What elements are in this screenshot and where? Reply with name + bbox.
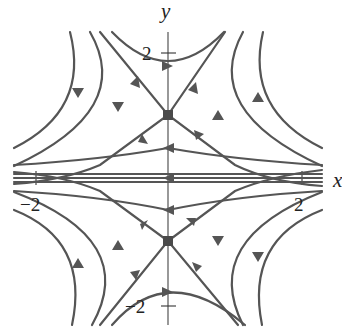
saddle-point-lower bbox=[163, 236, 173, 246]
trajectory-left-lower-outer bbox=[14, 210, 75, 325]
x-axis-label: x bbox=[333, 170, 342, 191]
trajectory-left-upper-outer bbox=[14, 32, 74, 148]
y-axis-label: y bbox=[161, 1, 170, 22]
arrow-up-icon bbox=[252, 92, 264, 102]
trajectory-right-upper-inner bbox=[232, 32, 322, 166]
y-tick-label-2: 2 bbox=[142, 44, 152, 63]
arrow-down-icon bbox=[212, 236, 224, 246]
saddle-point-upper bbox=[163, 110, 173, 120]
arrow-up-icon bbox=[72, 258, 84, 268]
trajectory-left-upper-inner bbox=[14, 32, 102, 166]
x-tick-label-2: 2 bbox=[294, 195, 304, 214]
arrow-up-icon bbox=[212, 110, 224, 120]
arrow-up-icon bbox=[112, 240, 124, 250]
y-tick-label-minus-2: −2 bbox=[125, 297, 145, 316]
x-tick-label-minus-2: −2 bbox=[20, 195, 40, 214]
arrow-down-icon bbox=[112, 102, 124, 112]
trajectory-right-lower-outer bbox=[259, 210, 322, 325]
trajectory-right-upper-outer bbox=[260, 32, 322, 148]
arrow-down-icon bbox=[72, 88, 84, 98]
trajectory-right-lower-inner bbox=[232, 192, 322, 325]
arrow-down-icon bbox=[252, 252, 264, 262]
